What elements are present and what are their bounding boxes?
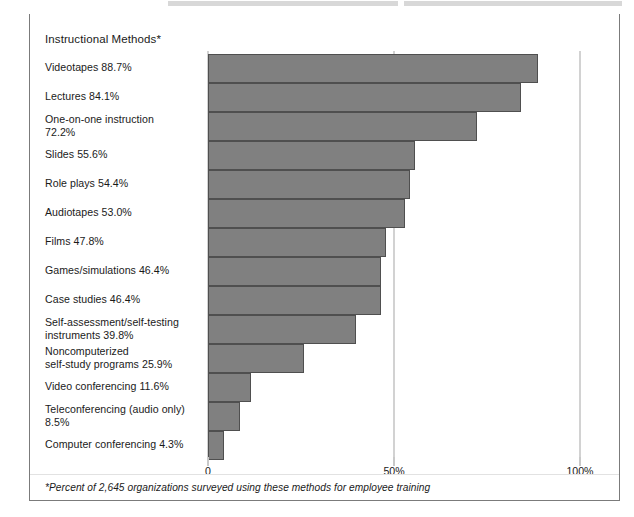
bar-row [208, 402, 240, 431]
category-label: Teleconferencing (audio only)8.5% [45, 403, 210, 429]
category-label: Audiotapes 53.0% [45, 206, 210, 219]
bar [208, 344, 304, 373]
bar [208, 54, 538, 83]
bar-row [208, 112, 477, 141]
bar [208, 315, 356, 344]
bar-row [208, 170, 410, 199]
bar [208, 257, 381, 286]
category-label: Lectures 84.1% [45, 90, 210, 103]
category-label: Games/simulations 46.4% [45, 264, 210, 277]
category-label: Self-assessment/self-testinginstruments … [45, 316, 210, 342]
bar [208, 141, 415, 170]
category-label-line: Noncomputerized [45, 345, 210, 358]
bar-row [208, 315, 356, 344]
x-tick-label: 100% [566, 465, 593, 477]
plot-area [208, 51, 580, 457]
category-label-line: Audiotapes 53.0% [45, 206, 210, 219]
category-label-line: 8.5% [45, 416, 210, 429]
bar [208, 402, 240, 431]
category-label: Slides 55.6% [45, 148, 210, 161]
category-label: Noncomputerizedself-study programs 25.9% [45, 345, 210, 371]
bar-row [208, 54, 538, 83]
top-strip-left [168, 1, 398, 6]
category-label-line: Video conferencing 11.6% [45, 380, 210, 393]
x-tick-label: 0 [205, 465, 211, 477]
bar-row [208, 257, 381, 286]
category-label-line: Role plays 54.4% [45, 177, 210, 190]
category-label-line: Films 47.8% [45, 235, 210, 248]
category-labels: Videotapes 88.7%Lectures 84.1%One-on-one… [45, 51, 205, 457]
category-label-line: Lectures 84.1% [45, 90, 210, 103]
category-label-line: Self-assessment/self-testing [45, 316, 210, 329]
x-tick-label: 50% [383, 465, 404, 477]
category-label: Video conferencing 11.6% [45, 380, 210, 393]
category-label: Films 47.8% [45, 235, 210, 248]
category-label: One-on-one instruction72.2% [45, 113, 210, 139]
bar [208, 431, 224, 460]
bar-series [208, 51, 580, 457]
bar [208, 112, 477, 141]
category-label-line: Slides 55.6% [45, 148, 210, 161]
category-label-line: Teleconferencing (audio only) [45, 403, 210, 416]
bar-row [208, 141, 415, 170]
x-axis: 050%100% [208, 457, 580, 479]
category-label-line: Case studies 46.4% [45, 293, 210, 306]
bar [208, 83, 521, 112]
bar [208, 228, 386, 257]
category-label-line: 72.2% [45, 126, 210, 139]
chart-title: Instructional Methods* [45, 33, 161, 45]
category-label-line: Games/simulations 46.4% [45, 264, 210, 277]
bar-row [208, 228, 386, 257]
bar [208, 286, 381, 315]
category-label-line: Videotapes 88.7% [45, 61, 210, 74]
bar-row [208, 83, 521, 112]
category-label: Videotapes 88.7% [45, 61, 210, 74]
bar [208, 170, 410, 199]
top-strip-right [404, 1, 622, 6]
category-label: Role plays 54.4% [45, 177, 210, 190]
footnote: *Percent of 2,645 organizations surveyed… [45, 482, 430, 493]
category-label: Computer conferencing 4.3% [45, 438, 210, 451]
bar [208, 199, 405, 228]
footnote-divider [30, 474, 619, 475]
category-label-line: self-study programs 25.9% [45, 358, 210, 371]
bar-row [208, 286, 381, 315]
category-label: Case studies 46.4% [45, 293, 210, 306]
category-label-line: One-on-one instruction [45, 113, 210, 126]
category-label-line: Computer conferencing 4.3% [45, 438, 210, 451]
category-label-line: instruments 39.8% [45, 329, 210, 342]
bar-row [208, 199, 405, 228]
bar-row [208, 344, 304, 373]
page-top-strips [0, 0, 634, 8]
bar-row [208, 431, 224, 460]
bar-row [208, 373, 251, 402]
bar [208, 373, 251, 402]
